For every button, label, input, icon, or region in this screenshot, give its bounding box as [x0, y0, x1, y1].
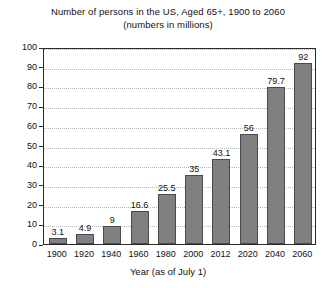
bar	[267, 87, 285, 244]
y-axis: 0102030405060708090100	[0, 48, 43, 245]
plot-area: 3.14.9916.625.53543.15679.792	[43, 48, 316, 245]
bar-value-label: 25.5	[158, 183, 176, 193]
bar-value-label: 9	[110, 215, 115, 225]
bar-group: 4.9	[71, 49, 98, 244]
bar-group: 25.5	[153, 49, 180, 244]
y-axis-tick-label: 70	[27, 101, 37, 112]
bar-value-label: 92	[298, 52, 308, 62]
bar	[294, 63, 312, 244]
bars-layer: 3.14.9916.625.53543.15679.792	[44, 49, 315, 244]
x-axis-tick-label: 2012	[210, 249, 230, 260]
x-axis-tick-label: 1960	[129, 249, 149, 260]
y-axis-tick-label: 40	[27, 160, 37, 171]
bar	[185, 175, 203, 244]
x-axis-tick-label: 1980	[156, 249, 176, 260]
x-axis-tick-label: 2020	[238, 249, 258, 260]
bar	[131, 211, 149, 244]
x-axis-tick-label: 1900	[47, 249, 67, 260]
x-axis-tick-label: 2060	[292, 249, 312, 260]
bar	[240, 134, 258, 244]
chart-title-line-2: (numbers in millions)	[0, 19, 336, 32]
chart-title: Number of persons in the US, Aged 65+, 1…	[0, 6, 336, 31]
x-axis-tick-label: 1940	[101, 249, 121, 260]
x-axis: 1900192019401960198020002012202020402060	[43, 246, 316, 262]
bar	[212, 159, 230, 244]
x-axis-tick-label: 2000	[183, 249, 203, 260]
bar-value-label: 3.1	[51, 227, 64, 237]
bar-group: 9	[99, 49, 126, 244]
y-axis-tick-label: 30	[27, 180, 37, 191]
bar	[49, 238, 67, 244]
bar	[158, 194, 176, 244]
chart-title-line-1: Number of persons in the US, Aged 65+, 1…	[0, 6, 336, 19]
bar-value-label: 4.9	[79, 223, 92, 233]
bar-group: 56	[235, 49, 262, 244]
y-axis-tick-label: 80	[27, 81, 37, 92]
y-axis-tick-label: 100	[22, 42, 37, 53]
bar-value-label: 79.7	[267, 76, 285, 86]
x-axis-tick-label: 2040	[265, 249, 285, 260]
y-axis-tick-label: 50	[27, 141, 37, 152]
bar-value-label: 35	[189, 164, 199, 174]
bar-group: 3.1	[44, 49, 71, 244]
bar-group: 92	[290, 49, 317, 244]
bar-value-label: 43.1	[213, 148, 231, 158]
bar	[103, 226, 121, 244]
y-axis-tick-label: 10	[27, 219, 37, 230]
bar-group: 35	[181, 49, 208, 244]
bar-group: 79.7	[262, 49, 289, 244]
bar-group: 16.6	[126, 49, 153, 244]
bar-group: 43.1	[208, 49, 235, 244]
x-axis-tick-label: 1920	[74, 249, 94, 260]
y-axis-tick-label: 60	[27, 121, 37, 132]
y-axis-tick-label: 20	[27, 200, 37, 211]
x-axis-title: Year (as of July 1)	[0, 266, 336, 278]
y-axis-tick-label: 0	[32, 239, 37, 250]
bar-chart-figure: Number of persons in the US, Aged 65+, 1…	[0, 0, 336, 288]
bar-value-label: 16.6	[131, 200, 149, 210]
y-axis-tick-label: 90	[27, 62, 37, 73]
bar-value-label: 56	[244, 123, 254, 133]
bar	[76, 234, 94, 244]
